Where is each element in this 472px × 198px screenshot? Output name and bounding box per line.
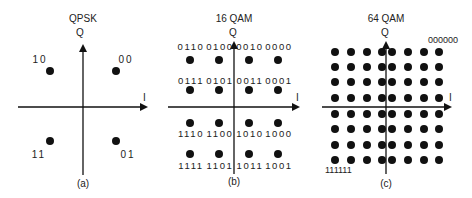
16qam-point-label: 0011: [237, 75, 264, 86]
qpsk-point: [112, 137, 120, 145]
constellation-figure: QPSK Q I 10 00 11 01 (a) 16 QAM Q I 0110…: [0, 0, 472, 198]
16qam-point-label: 0101: [206, 75, 234, 86]
64qam-corner-label-bottom-left: 111111: [325, 165, 352, 175]
16qam-point-label: 1000: [265, 128, 293, 139]
16qam-point-label: 0010: [236, 41, 264, 52]
qpsk-point: [46, 137, 54, 145]
qpsk-point: [46, 67, 54, 75]
64qam-q-axis-label: Q: [381, 27, 389, 38]
qpsk-point-label: 00: [118, 54, 133, 65]
16qam-q-axis-label: Q: [229, 27, 237, 38]
16qam-point-label: 1110: [178, 128, 204, 139]
qpsk-panel: QPSK Q I 10 00 11 01 (a): [18, 13, 146, 189]
64qam-title: 64 QAM: [368, 13, 405, 24]
16qam-point-label: 0100: [206, 41, 234, 52]
16qam-panel: 16 QAM Q I 0110 0100 0010 0000 0111 0101…: [168, 13, 299, 187]
qpsk-caption: (a): [77, 178, 89, 189]
16qam-point-label: 1011: [237, 160, 264, 171]
16qam-point-label: 1100: [207, 128, 234, 139]
qpsk-title: QPSK: [69, 13, 97, 24]
qpsk-point-label: 01: [120, 149, 135, 160]
16qam-point-label: 0110: [178, 41, 205, 52]
16qam-i-axis-label: I: [296, 92, 299, 103]
64qam-points: [331, 48, 443, 164]
16qam-caption: (b): [228, 176, 240, 187]
64qam-caption: (c): [380, 178, 392, 189]
qpsk-point-label: 11: [32, 149, 46, 160]
16qam-point-label: 1111: [178, 160, 203, 171]
16qam-point-label: 0111: [178, 75, 204, 86]
qpsk-point-label: 10: [32, 54, 47, 65]
qpsk-point: [112, 67, 120, 75]
16qam-point-label: 1010: [236, 128, 264, 139]
qpsk-i-axis-label: I: [143, 92, 146, 103]
16qam-title: 16 QAM: [216, 13, 253, 24]
16qam-point-label: 1001: [265, 160, 293, 171]
16qam-point-label: 1101: [207, 160, 234, 171]
16qam-point-label: 0000: [265, 41, 293, 52]
16qam-point-label: 0001: [265, 75, 293, 86]
qpsk-q-axis-label: Q: [76, 27, 84, 38]
64qam-corner-label-top-right: 000000: [428, 35, 458, 45]
64qam-i-axis-label: I: [449, 92, 452, 103]
64qam-panel: 64 QAM Q I 000000 111111: [322, 13, 458, 189]
